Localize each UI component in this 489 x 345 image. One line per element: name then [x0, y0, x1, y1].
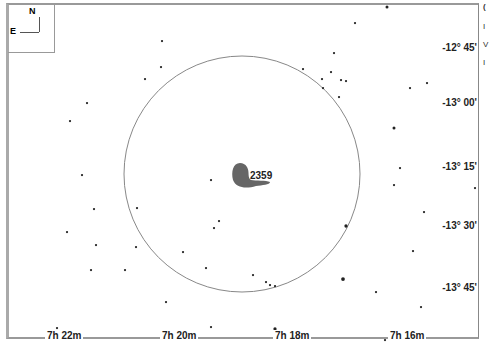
dec-label: -13° 30'	[442, 220, 477, 231]
sidebar-fragment: I	[483, 58, 485, 67]
orientation-indicator: N E	[8, 4, 55, 53]
dec-label: -13° 45'	[442, 282, 477, 293]
object-label-ngc2359: 2359	[250, 170, 272, 181]
dec-label: -13° 15'	[442, 161, 477, 172]
dec-label: -12° 45'	[442, 42, 477, 53]
east-arrow-line	[20, 32, 39, 33]
sidebar-fragment: (	[483, 2, 486, 11]
ra-label: 7h 16m	[388, 330, 426, 341]
dec-label: -13° 00'	[442, 97, 477, 108]
star-chart: N E 2359 -12° 45'-13° 00'-13° 15'-13° 30…	[0, 0, 489, 345]
ra-label: 7h 20m	[160, 330, 198, 341]
east-label: E	[10, 26, 16, 36]
chart-frame	[6, 3, 479, 339]
north-label: N	[29, 6, 36, 16]
star	[384, 339, 386, 341]
north-arrow-line	[39, 17, 40, 32]
sidebar-fragment: I	[483, 22, 485, 31]
ra-label: 7h 18m	[273, 330, 311, 341]
ra-label: 7h 22m	[45, 330, 83, 341]
sidebar-fragment: V	[483, 40, 488, 49]
